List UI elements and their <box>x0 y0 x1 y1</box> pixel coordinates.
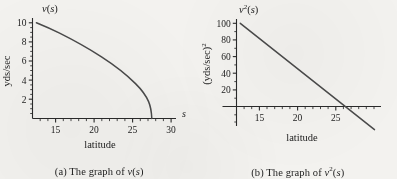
plot-a-top-label: v(s) <box>42 3 58 15</box>
y-tick-label: 4 <box>22 76 27 86</box>
y-major-ticks-b <box>232 23 236 90</box>
caption-a-prefix: (a) The graph of <box>55 166 128 177</box>
x-tick-label: 25 <box>128 125 138 135</box>
y-axis-label-a: yds/sec <box>1 55 12 86</box>
y-tick-label: 10 <box>17 18 27 28</box>
figure-panel-a: v(s) <box>0 0 199 179</box>
y-axis-label-b: (yds/sec)2 <box>200 43 213 85</box>
figure-panel-b: v2(s) <box>199 0 397 179</box>
plot-b-top-label: v2(s) <box>239 3 259 16</box>
x-tick-labels-a: 15 20 25 30 <box>51 125 176 135</box>
y-tick-label: 2 <box>22 95 27 105</box>
x-tick-label: 30 <box>166 125 176 135</box>
figure-pair: v(s) <box>0 0 397 179</box>
x-tick-label: 15 <box>51 125 61 135</box>
caption-a-paren-close: ) <box>140 166 144 177</box>
curve-v-of-s <box>36 23 151 119</box>
y-tick-label: 80 <box>221 35 231 45</box>
plot-a: v(s) <box>0 0 199 179</box>
caption-b: (b) The graph of v2(s) <box>199 165 397 178</box>
y-tick-labels-b: 100 80 60 40 20 <box>216 19 231 96</box>
x-tick-label: 20 <box>292 113 302 123</box>
y-tick-label: 100 <box>216 19 231 29</box>
y-tick-label: 6 <box>22 56 27 66</box>
caption-a: (a) The graph of v(s) <box>0 166 199 177</box>
caption-b-paren-close: ) <box>341 166 345 177</box>
y-tick-label: 60 <box>221 52 231 62</box>
caption-b-prefix: (b) The graph of <box>251 166 324 177</box>
y-tick-label: 40 <box>221 69 231 79</box>
x-tick-label: 15 <box>254 113 264 123</box>
plot-b: v2(s) <box>199 0 397 179</box>
y-major-ticks-a <box>29 23 33 99</box>
x-tick-labels-b: 15 20 25 <box>254 113 340 123</box>
x-tick-label: 25 <box>331 113 341 123</box>
y-tick-labels-a: 10 8 6 4 2 <box>17 18 27 104</box>
x-major-ticks-b <box>259 107 335 111</box>
x-axis-label-a: latitude <box>84 139 116 150</box>
y-tick-label: 20 <box>221 85 231 95</box>
x-tick-label: 20 <box>89 125 99 135</box>
x-axis-symbol-a: s <box>182 108 186 119</box>
plot-a-svg: v(s) <box>0 0 199 160</box>
x-axis-label-b: latitude <box>286 132 318 143</box>
y-tick-label: 8 <box>22 37 27 47</box>
x-major-ticks-a <box>56 119 172 123</box>
plot-b-svg: v2(s) <box>199 0 397 160</box>
